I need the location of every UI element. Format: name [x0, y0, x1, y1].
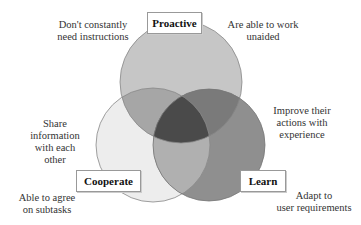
note-line: Don't constantly: [48, 19, 138, 31]
note-line: need instructions: [48, 31, 138, 43]
note-agree-subtasks: Able to agree on subtasks: [12, 192, 82, 216]
note-improve-actions: Improve their actions with experience: [262, 105, 342, 141]
label-learn: Learn: [240, 170, 286, 192]
note-line: actions with: [262, 117, 342, 129]
note-line: unaided: [218, 31, 308, 43]
note-adapt-requirements: Adapt to user requirements: [264, 190, 361, 214]
note-line: experience: [262, 129, 342, 141]
note-line: information: [24, 130, 86, 142]
note-line: Share: [24, 118, 86, 130]
note-line: Improve their: [262, 105, 342, 117]
note-line: Are able to work: [218, 19, 308, 31]
note-work-unaided: Are able to work unaided: [218, 19, 308, 43]
note-line: other: [24, 154, 86, 166]
note-line: user requirements: [264, 202, 361, 214]
note-line: on subtasks: [12, 204, 82, 216]
note-line: with each: [24, 142, 86, 154]
note-line: Able to agree: [12, 192, 82, 204]
note-dont-need-instructions: Don't constantly need instructions: [48, 19, 138, 43]
label-cooperate: Cooperate: [76, 170, 141, 192]
note-share-information: Share information with each other: [24, 118, 86, 166]
label-proactive: Proactive: [147, 12, 202, 34]
